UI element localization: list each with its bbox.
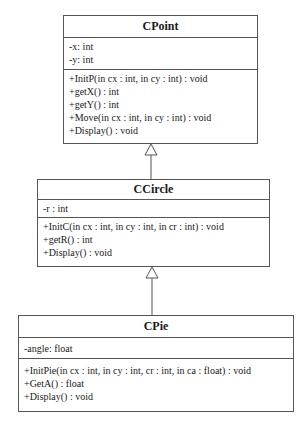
operation: +Display() : void (43, 246, 269, 259)
attribute: -y: int (69, 53, 257, 66)
operation: +InitPie(in cx : int, in cy : int, cr : … (24, 364, 293, 377)
operation: +InitC(in cx : int, in cy : int, in cr :… (43, 220, 269, 233)
operations-compartment: +InitP(in cx : int, in cy : int) : void … (64, 70, 257, 137)
hollow-triangle-arrow-icon (145, 144, 157, 155)
attribute: -r : int (43, 202, 269, 215)
operation: +InitP(in cx : int, in cy : int) : void (69, 72, 257, 85)
operation: +GetA() : float (24, 377, 293, 390)
operation: +getX() : int (69, 85, 257, 98)
class-box-cpoint: CPoint -x: int -y: int +InitP(in cx : in… (63, 15, 258, 144)
class-name: CPoint (64, 16, 257, 38)
class-box-ccircle: CCircle -r : int +InitC(in cx : int, in … (37, 179, 270, 267)
attributes-compartment: -r : int (38, 200, 269, 218)
operation: +Display() : void (24, 390, 293, 403)
class-name: CCircle (38, 180, 269, 200)
hollow-triangle-arrow-icon (146, 267, 158, 278)
operation: +getR() : int (43, 233, 269, 246)
class-name: CPie (19, 316, 293, 338)
attributes-compartment: -x: int -y: int (64, 38, 257, 70)
class-box-cpie: CPie -angle: float +InitPie(in cx : int,… (18, 315, 294, 412)
operation: +getY() : int (69, 98, 257, 111)
operations-compartment: +InitPie(in cx : int, in cy : int, cr : … (19, 359, 293, 403)
operation: +Move(in cx : int, in cy : int) : void (69, 111, 257, 124)
operation: +Display() : void (69, 124, 257, 137)
generalization-ccircle-to-cpoint (145, 144, 157, 179)
attribute: -x: int (69, 40, 257, 53)
operations-compartment: +InitC(in cx : int, in cy : int, in cr :… (38, 218, 269, 259)
attribute: -angle: float (24, 342, 293, 355)
generalization-cpie-to-ccircle (146, 267, 158, 315)
attributes-compartment: -angle: float (19, 338, 293, 359)
